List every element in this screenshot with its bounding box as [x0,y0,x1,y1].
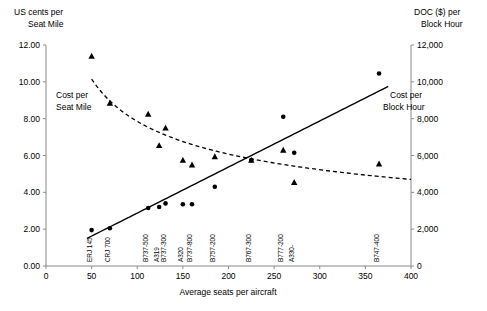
block-hour-annotation-line1: Cost per [390,90,422,100]
trendlines [87,79,411,238]
left-tick-label: 10.00 [19,77,41,87]
left-axis-ticks: 0.002.004.006.008.0010.0012.00 [19,40,46,271]
marker-circle-cost-per-block-hour [281,115,286,120]
seat-mile-trend [92,79,411,179]
marker-circle-cost-per-block-hour [213,185,218,190]
marker-triangle-cost-per-seat-mile [156,142,162,148]
block-hour-annotation-line2: Block Hour [383,102,425,112]
right-axis-ticks: 02,0004,0006,0008,00010,00012,000 [411,40,443,271]
left-tick-label: 12.00 [19,40,41,50]
aircraft-label: B737-800 [186,234,193,262]
left-axis-title-line2: Seat Mile [28,19,64,29]
aircraft-label: CRJ 700 [104,237,111,262]
right-tick-label: 10,000 [417,77,443,87]
x-tick-label: 50 [87,271,97,281]
x-tick-label: 150 [176,271,190,281]
x-tick-label: 400 [404,271,418,281]
marker-circle-cost-per-block-hour [146,206,151,211]
marker-circle-cost-per-block-hour [108,226,113,231]
aircraft-label: B777-200 [277,234,284,262]
x-axis-title: Average seats per aircraft [179,287,277,297]
marker-circle-cost-per-block-hour [190,202,195,207]
doc-cost-scatter-chart: US cents per Seat Mile DOC ($) per Block… [0,0,487,311]
right-tick-label: 0 [417,261,422,271]
chart-container: US cents per Seat Mile DOC ($) per Block… [0,0,487,311]
seat-mile-annotation-line1: Cost per [56,90,88,100]
aircraft-label: A320 [177,247,184,262]
x-tick-label: 250 [267,271,281,281]
x-tick-label: 350 [358,271,372,281]
marker-circle-cost-per-block-hour [249,158,254,163]
left-tick-label: 6.00 [23,151,40,161]
marker-triangle-cost-per-seat-mile [291,179,297,185]
aircraft-label: B737-300 [160,234,167,262]
x-tick-label: 0 [44,271,49,281]
marker-triangle-cost-per-seat-mile [376,161,382,167]
marker-triangle-cost-per-seat-mile [88,53,94,59]
marker-triangle-cost-per-seat-mile [180,157,186,163]
axis-lines [46,45,411,266]
aircraft-label: A330- [288,245,295,262]
axis-titles: US cents per Seat Mile DOC ($) per Block… [14,7,463,29]
marker-circle-cost-per-block-hour [157,205,162,210]
aircraft-label: B737-500 [142,234,149,262]
marker-triangle-cost-per-seat-mile [145,111,151,117]
marker-circle-cost-per-block-hour [163,201,168,206]
left-tick-label: 4.00 [23,187,40,197]
marker-triangle-cost-per-seat-mile [189,162,195,168]
marker-circle-cost-per-block-hour [377,71,382,76]
left-tick-label: 2.00 [23,224,40,234]
aircraft-label: B757-200 [209,234,216,262]
left-tick-label: 8.00 [23,114,40,124]
series-markers [88,53,382,233]
marker-triangle-cost-per-seat-mile [162,125,168,131]
x-tick-label: 300 [313,271,327,281]
right-axis-title-line1: DOC ($) per [414,7,460,17]
right-tick-label: 4,000 [417,187,439,197]
right-tick-label: 12,000 [417,40,443,50]
aircraft-label: ERJ 145 [86,237,93,262]
right-tick-label: 8,000 [417,114,439,124]
right-tick-label: 2,000 [417,224,439,234]
marker-circle-cost-per-block-hour [89,228,94,233]
right-axis-title-line2: Block Hour [421,19,463,29]
right-tick-label: 6,000 [417,151,439,161]
marker-triangle-cost-per-seat-mile [212,153,218,159]
aircraft-label: B767-300 [245,234,252,262]
marker-circle-cost-per-block-hour [181,202,186,207]
x-tick-label: 200 [221,271,235,281]
left-axis-title-line1: US cents per [14,7,63,17]
x-tick-label: 100 [130,271,144,281]
left-tick-label: 0.00 [23,261,40,271]
aircraft-category-labels: ERJ 145CRJ 700B737-500A319B737-300A320B7… [86,234,380,262]
block-hour-trend [87,86,388,238]
chart-annotations: Cost per Seat Mile Cost per Block Hour [56,90,425,112]
x-axis-ticks: 050100150200250300350400 [44,266,419,281]
marker-circle-cost-per-block-hour [292,150,297,155]
marker-triangle-cost-per-seat-mile [280,147,286,153]
seat-mile-annotation-line2: Seat Mile [56,102,92,112]
aircraft-label: B747-400 [373,234,380,262]
